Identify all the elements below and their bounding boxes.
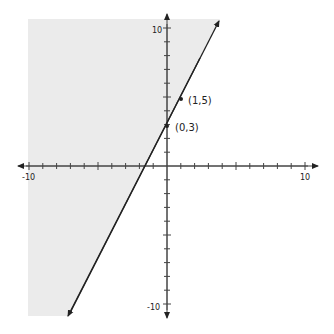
- point-label-1-5: (1,5): [188, 95, 212, 106]
- y-max-label: 10: [152, 26, 162, 35]
- point-label-0-3: (0,3): [175, 122, 199, 133]
- point-1-5: [179, 97, 183, 101]
- y-min-label: -10: [147, 303, 160, 312]
- coordinate-plane: -10 10 10 -10 (1,5) (0,3): [0, 0, 334, 334]
- point-0-3: [165, 124, 169, 128]
- x-max-label: 10: [300, 173, 310, 182]
- chart-container: -10 10 10 -10 (1,5) (0,3): [0, 0, 334, 334]
- x-min-label: -10: [22, 173, 35, 182]
